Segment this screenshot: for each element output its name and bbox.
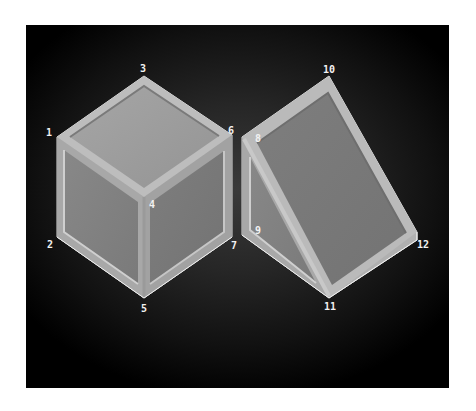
vertex-label-6: 6 [228,125,234,136]
vertex-label-2: 2 [47,239,53,250]
vertex-label-4: 4 [149,199,155,210]
vertex-label-9: 9 [255,225,261,236]
vertex-label-1: 1 [46,127,52,138]
shapes-diagram: 1 2 3 4 5 6 7 8 9 10 11 12 [0,0,476,411]
triangular-prism [242,76,417,298]
vertex-label-8: 8 [255,133,261,144]
vertex-label-5: 5 [141,303,147,314]
vertex-label-3: 3 [140,63,146,74]
vertex-label-11: 11 [324,301,336,312]
vertex-label-12: 12 [417,239,429,250]
vertex-label-10: 10 [323,64,335,75]
cube [57,76,232,298]
vertex-label-7: 7 [231,240,237,251]
